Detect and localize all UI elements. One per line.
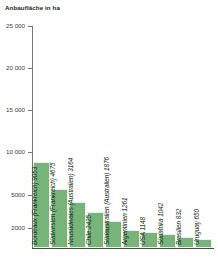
bar-group-suedafrika[interactable]: Südafrika 1042 <box>159 24 176 248</box>
y-tick-label-10000: 10 000 <box>6 148 25 155</box>
y-tick-label-2000: 2000 <box>11 224 25 231</box>
y-tick-label-15000: 15 000 <box>6 106 25 113</box>
bar-group-chile[interactable]: Chile 2425 <box>87 24 104 248</box>
bar-group-suedwesten[interactable]: Südwesten (Frankreich) 4675 <box>51 24 68 248</box>
bar-group-brasilien[interactable]: Brasilien 832 <box>177 24 194 248</box>
bar-label: Argentinien 1261 <box>121 197 128 245</box>
bar-label: Südafrika 1042 <box>157 203 164 245</box>
plot-area: 25 000 20 000 15 000 10 000 5000 2000 Bo… <box>32 24 214 249</box>
y-tick-label-20000: 20 000 <box>6 64 25 71</box>
bar-label: Südaustralien (Australien) 1876 <box>103 157 110 245</box>
bar-label: Uruguay 650 <box>193 209 200 245</box>
bar-label: Brasilien 832 <box>175 209 182 245</box>
bar-chart: Anbaufläche in ha 25 000 20 000 15 000 1… <box>0 0 218 259</box>
bar-group-neusuedwales[interactable]: Neusüdwales (Australien) 3164 <box>69 24 86 248</box>
chart-title: Anbaufläche in ha <box>5 4 60 11</box>
bar-group-bordeaux[interactable]: Bordeaux (Frankreich) 9053 <box>33 24 50 248</box>
bars-layer: Bordeaux (Frankreich) 9053 Südwesten (Fr… <box>33 24 214 248</box>
bar-group-argentinien[interactable]: Argentinien 1261 <box>123 24 140 248</box>
bar-group-suedaustralien[interactable]: Südaustralien (Australien) 1876 <box>105 24 122 248</box>
bar-label: Neusüdwales (Australien) 3164 <box>67 158 74 245</box>
y-tick-label-25000: 25 000 <box>6 22 25 29</box>
bar-group-uruguay[interactable]: Uruguay 650 <box>195 24 212 248</box>
bar-label: Südwesten (Frankreich) 4675 <box>49 163 56 245</box>
y-tick-label-5000: 5000 <box>11 191 25 198</box>
bar-label: Bordeaux (Frankreich) 9053 <box>31 167 38 245</box>
bar-group-usa[interactable]: USA 1148 <box>141 24 158 248</box>
bar-label: Chile 2425 <box>85 215 92 245</box>
bar-label: USA 1148 <box>139 217 146 245</box>
x-axis-line <box>32 248 214 249</box>
